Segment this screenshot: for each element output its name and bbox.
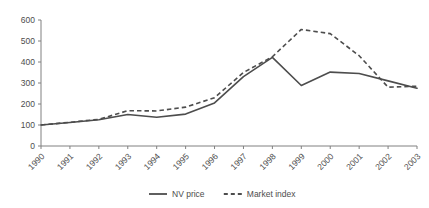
x-axis-tick-labels: 1990199119921993199419951996199719981999… [26,151,423,172]
x-tick-label: 1999 [286,151,307,172]
y-axis-tick-labels: 0100200300400500600 [21,15,35,151]
chart-svg: 0100200300400500600 19901991199219931994… [0,0,429,208]
plot-area: 0100200300400500600 19901991199219931994… [0,0,429,208]
x-tick-label: 1994 [142,151,163,172]
y-tick-label: 400 [21,57,35,67]
x-tick-label: 2003 [402,151,423,172]
x-tick-label: 1993 [113,151,134,172]
y-tick-label: 100 [21,120,35,130]
legend-label-nv-price: NV price [172,189,205,199]
x-tick-label: 2001 [344,151,365,172]
data-series-group [41,29,417,125]
y-tick-label: 300 [21,78,35,88]
legend-label-market-index: Market index [247,189,296,199]
line-chart: 0100200300400500600 19901991199219931994… [0,0,429,208]
y-tick-label: 200 [21,99,35,109]
x-tick-label: 1996 [200,151,221,172]
x-tick-label: 1998 [257,151,278,172]
x-tick-label: 1997 [228,151,249,172]
x-tick-label: 1995 [171,151,192,172]
x-tick-label: 2002 [373,151,394,172]
x-tick-label: 1991 [55,151,76,172]
y-tick-label: 0 [30,141,35,151]
x-tick-label: 1990 [26,151,47,172]
x-tick-label: 1992 [84,151,105,172]
y-tick-label: 500 [21,36,35,46]
chart-legend: NV priceMarket index [149,189,296,199]
x-tick-label: 2000 [315,151,336,172]
y-tick-label: 600 [21,15,35,25]
series-line-market-index [41,29,417,125]
series-line-nv-price [41,57,417,125]
